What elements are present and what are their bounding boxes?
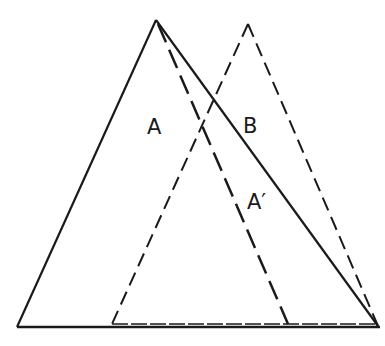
triangles-diagram	[0, 0, 385, 346]
label-a: A	[147, 117, 161, 138]
triangle-b-left-side	[112, 24, 248, 324]
triangle-a-left-side	[17, 20, 156, 327]
label-b: B	[243, 116, 257, 137]
label-a-prime: A′	[247, 192, 266, 213]
